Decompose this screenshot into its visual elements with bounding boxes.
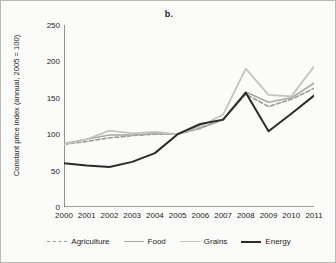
legend-item-energy[interactable]: Energy [241, 237, 290, 246]
series-line-grains [64, 67, 314, 145]
series-line-food [64, 83, 314, 143]
x-tick-label: 2006 [191, 211, 209, 220]
legend-swatch-food [124, 241, 144, 242]
legend-swatch-grains [180, 241, 200, 242]
legend-swatch-agriculture [47, 241, 67, 242]
chart-legend: AgricultureFoodGrainsEnergy [1, 237, 336, 246]
plot-area [64, 25, 314, 207]
x-tick-label: 2011 [305, 211, 322, 220]
x-axis-ticks: 2000200120022003200420052006200720082009… [64, 209, 314, 223]
legend-swatch-energy [241, 241, 261, 243]
legend-item-grains[interactable]: Grains [180, 237, 228, 246]
chart-title: b. [1, 9, 336, 19]
x-tick-label: 2009 [260, 211, 278, 220]
legend-item-food[interactable]: Food [124, 237, 166, 246]
data-series-group [64, 67, 314, 167]
x-tick-label: 2003 [123, 211, 141, 220]
x-tick-label: 2000 [55, 211, 73, 220]
legend-label: Energy [265, 237, 290, 246]
y-axis-ticks: 050100150200250 [32, 25, 60, 207]
x-tick-label: 2010 [282, 211, 300, 220]
y-tick-label: 200 [34, 57, 60, 66]
y-tick-label: 150 [34, 93, 60, 102]
y-axis-label: Constant price index (annual, 2005 = 100… [12, 11, 21, 201]
x-tick-label: 2001 [78, 211, 96, 220]
legend-label: Grains [204, 237, 228, 246]
plot-svg [64, 25, 314, 207]
x-tick-label: 2004 [146, 211, 164, 220]
legend-item-agriculture[interactable]: Agriculture [47, 237, 109, 246]
x-tick-label: 2002 [101, 211, 119, 220]
x-tick-label: 2007 [214, 211, 232, 220]
y-tick-label: 100 [34, 130, 60, 139]
x-tick-label: 2008 [237, 211, 255, 220]
y-tick-label: 250 [34, 21, 60, 30]
chart-figure: b. Constant price index (annual, 2005 = … [0, 0, 336, 263]
legend-label: Food [148, 237, 166, 246]
x-tick-label: 2005 [169, 211, 187, 220]
legend-label: Agriculture [71, 237, 109, 246]
y-tick-label: 50 [34, 166, 60, 175]
axis-lines [64, 25, 314, 207]
